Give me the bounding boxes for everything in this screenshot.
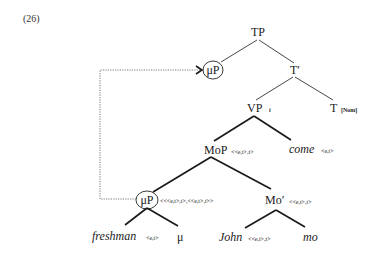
movement-path	[100, 70, 200, 199]
node-john-type: <<e,t>,t>	[248, 236, 271, 242]
edge-mop-mobar	[211, 157, 271, 189]
node-mup-top: μP	[206, 63, 219, 77]
node-mup-low-type: <<<e,t>,t>,<<e,t>,t>>	[160, 198, 214, 204]
node-come-type: <e,t>	[321, 148, 334, 154]
edge-tp-tbar	[259, 40, 294, 63]
node-vp-subscript: t	[269, 107, 271, 113]
node-mop-type: <<e,t>,t>	[231, 149, 254, 155]
node-vp: VP	[247, 101, 263, 115]
example-number: (26)	[23, 13, 40, 25]
node-tp: TP	[251, 25, 265, 39]
edge-tbar-vp	[256, 77, 293, 100]
edge-tbar-t	[295, 77, 333, 100]
edge-mup-mu	[147, 208, 178, 226]
node-t: T	[330, 101, 338, 115]
node-mup-low: μP	[140, 193, 153, 207]
node-mo-bar: Mo′	[265, 193, 285, 207]
node-freshman-type: <e,t>	[146, 235, 159, 241]
edge-tp-mup	[221, 40, 257, 62]
node-t-bar: T′	[290, 63, 300, 77]
node-mo-bar-type: <<e,t>,t>	[289, 199, 312, 205]
node-mo: mo	[303, 230, 318, 244]
edge-mobar-john	[245, 210, 276, 228]
edge-mobar-mo	[276, 210, 305, 227]
node-freshman: freshman	[92, 229, 136, 243]
syntax-tree-diagram: (26) TP μP T′ VP t T [Nom] MoP <<e,t>,t>…	[0, 0, 382, 256]
edge-mup-freshman	[125, 208, 147, 225]
edge-vp-mop	[214, 116, 254, 141]
node-john: John	[219, 230, 242, 244]
edge-vp-come	[254, 116, 291, 140]
node-mop: MoP	[204, 143, 228, 157]
node-t-feature: [Nom]	[341, 107, 357, 114]
node-mu: μ	[177, 230, 183, 244]
node-come: come	[289, 142, 315, 156]
edge-mop-mup	[153, 157, 211, 192]
